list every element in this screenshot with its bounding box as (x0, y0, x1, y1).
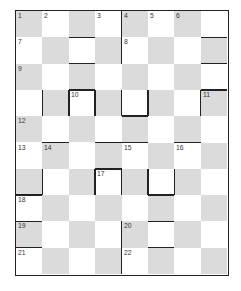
grid-cell-r0-c6[interactable]: 6 (174, 11, 200, 37)
clue-number: 14 (44, 144, 52, 152)
clue-number: 20 (124, 222, 132, 230)
bar-vertical (42, 90, 44, 116)
grid-cell-r0-c0[interactable]: 1 (16, 11, 42, 37)
grid-cell-r0-c1[interactable]: 2 (42, 11, 68, 37)
grid-cell-r2-c2[interactable] (69, 64, 95, 90)
grid-cell-r7-c3[interactable] (95, 195, 121, 221)
grid-cell-r4-c4[interactable] (122, 116, 148, 142)
grid-cell-r2-c3[interactable] (95, 64, 121, 90)
grid-cell-r3-c0[interactable] (16, 90, 42, 116)
grid-cell-r1-c5[interactable] (148, 37, 174, 63)
grid-cell-r2-c7[interactable] (201, 64, 227, 90)
grid-cell-r2-c5[interactable] (148, 64, 174, 90)
grid-cell-r6-c0[interactable] (16, 169, 42, 195)
bar-horizontal (201, 37, 227, 39)
grid-cell-r8-c1[interactable] (42, 221, 68, 247)
grid-cell-r9-c5[interactable] (148, 248, 174, 274)
grid-cell-r9-c3[interactable] (95, 248, 121, 274)
grid-cell-r7-c4[interactable] (122, 195, 148, 221)
grid-cell-r3-c3[interactable] (95, 90, 121, 116)
grid-cell-r9-c1[interactable] (42, 248, 68, 274)
grid-cell-r1-c6[interactable] (174, 37, 200, 63)
clue-number: 7 (18, 38, 22, 46)
grid-cell-r7-c1[interactable] (42, 195, 68, 221)
grid-cell-r9-c6[interactable] (174, 248, 200, 274)
grid-cell-r2-c0[interactable]: 9 (16, 64, 42, 90)
grid-cell-r6-c6[interactable] (174, 169, 200, 195)
grid-cell-r5-c3[interactable] (95, 143, 121, 169)
grid-cell-r4-c2[interactable] (69, 116, 95, 142)
grid-cell-r0-c7[interactable] (201, 11, 227, 37)
grid-cell-r7-c5[interactable] (148, 195, 174, 221)
grid-cell-r3-c5[interactable] (148, 90, 174, 116)
clue-number: 8 (124, 38, 128, 46)
clue-number: 15 (124, 144, 132, 152)
grid-cell-r8-c5[interactable] (148, 221, 174, 247)
grid-cell-r5-c4[interactable]: 15 (122, 143, 148, 169)
grid-cell-r7-c2[interactable] (69, 195, 95, 221)
grid-cell-r8-c0[interactable]: 19 (16, 221, 42, 247)
grid-cell-r5-c7[interactable] (201, 143, 227, 169)
grid-cell-r0-c5[interactable]: 5 (148, 11, 174, 37)
grid-cell-r4-c0[interactable]: 12 (16, 116, 42, 142)
grid-cell-r2-c1[interactable] (42, 64, 68, 90)
grid-cell-r9-c4[interactable]: 22 (122, 248, 148, 274)
grid-cell-r1-c4[interactable]: 8 (122, 37, 148, 63)
clue-number: 5 (150, 12, 154, 20)
clue-number: 18 (18, 196, 26, 204)
grid-cell-r6-c7[interactable] (201, 169, 227, 195)
grid-cell-r5-c0[interactable]: 13 (16, 143, 42, 169)
grid-cell-r5-c6[interactable]: 16 (174, 143, 200, 169)
grid-cell-r4-c5[interactable] (148, 116, 174, 142)
grid-cell-r4-c7[interactable] (201, 116, 227, 142)
grid-cell-r3-c2[interactable]: 10 (69, 90, 95, 116)
grid-cell-r7-c6[interactable] (174, 195, 200, 221)
grid-cell-r1-c3[interactable] (95, 37, 121, 63)
crossword-grid: 12345678910111213141516171819202122 (15, 10, 229, 276)
grid-cell-r6-c3[interactable]: 17 (95, 169, 121, 195)
grid-cell-r0-c2[interactable] (69, 11, 95, 37)
grid-cell-r9-c7[interactable] (201, 248, 227, 274)
grid-cell-r7-c0[interactable]: 18 (16, 195, 42, 221)
grid-cell-r3-c1[interactable] (42, 90, 68, 116)
grid-cell-r4-c6[interactable] (174, 116, 200, 142)
grid-cell-r5-c1[interactable]: 14 (42, 143, 68, 169)
grid-cell-r8-c2[interactable] (69, 221, 95, 247)
grid-cell-r2-c6[interactable] (174, 64, 200, 90)
clue-number: 1 (18, 12, 22, 20)
bar-horizontal (148, 247, 174, 249)
bar-horizontal (16, 221, 42, 223)
grid-cell-r5-c5[interactable] (148, 143, 174, 169)
grid-cell-r6-c5[interactable] (148, 169, 174, 195)
grid-cell-r8-c4[interactable]: 20 (122, 221, 148, 247)
clue-number: 12 (18, 117, 26, 125)
grid-cell-r4-c3[interactable] (95, 116, 121, 142)
bar-horizontal (69, 63, 95, 65)
grid-cell-r5-c2[interactable] (69, 143, 95, 169)
grid-cell-r3-c4[interactable] (122, 90, 148, 116)
grid-cell-r0-c4[interactable]: 4 (122, 11, 148, 37)
bar-horizontal (95, 142, 121, 144)
grid-cell-r8-c6[interactable] (174, 221, 200, 247)
grid-cell-r4-c1[interactable] (42, 116, 68, 142)
grid-cell-r1-c0[interactable]: 7 (16, 37, 42, 63)
grid-cell-r8-c3[interactable] (95, 221, 121, 247)
grid-cell-r2-c4[interactable] (122, 64, 148, 90)
bar-horizontal (122, 115, 148, 117)
bar-vertical (121, 90, 123, 116)
grid-cell-r3-c6[interactable] (174, 90, 200, 116)
grid-cell-r7-c7[interactable] (201, 195, 227, 221)
grid-cell-r8-c7[interactable] (201, 221, 227, 247)
grid-cell-r1-c1[interactable] (42, 37, 68, 63)
grid-cell-r9-c2[interactable] (69, 248, 95, 274)
bar-horizontal (16, 247, 42, 249)
grid-cell-r6-c4[interactable] (122, 169, 148, 195)
grid-cell-r3-c7[interactable]: 11 (201, 90, 227, 116)
grid-cell-r6-c2[interactable] (69, 169, 95, 195)
grid-cell-r9-c0[interactable]: 21 (16, 248, 42, 274)
grid-cell-r0-c3[interactable]: 3 (95, 11, 121, 37)
grid-cell-r1-c7[interactable] (201, 37, 227, 63)
grid-cell-r6-c1[interactable] (42, 169, 68, 195)
grid-cell-r1-c2[interactable] (69, 37, 95, 63)
clue-number: 6 (176, 12, 180, 20)
